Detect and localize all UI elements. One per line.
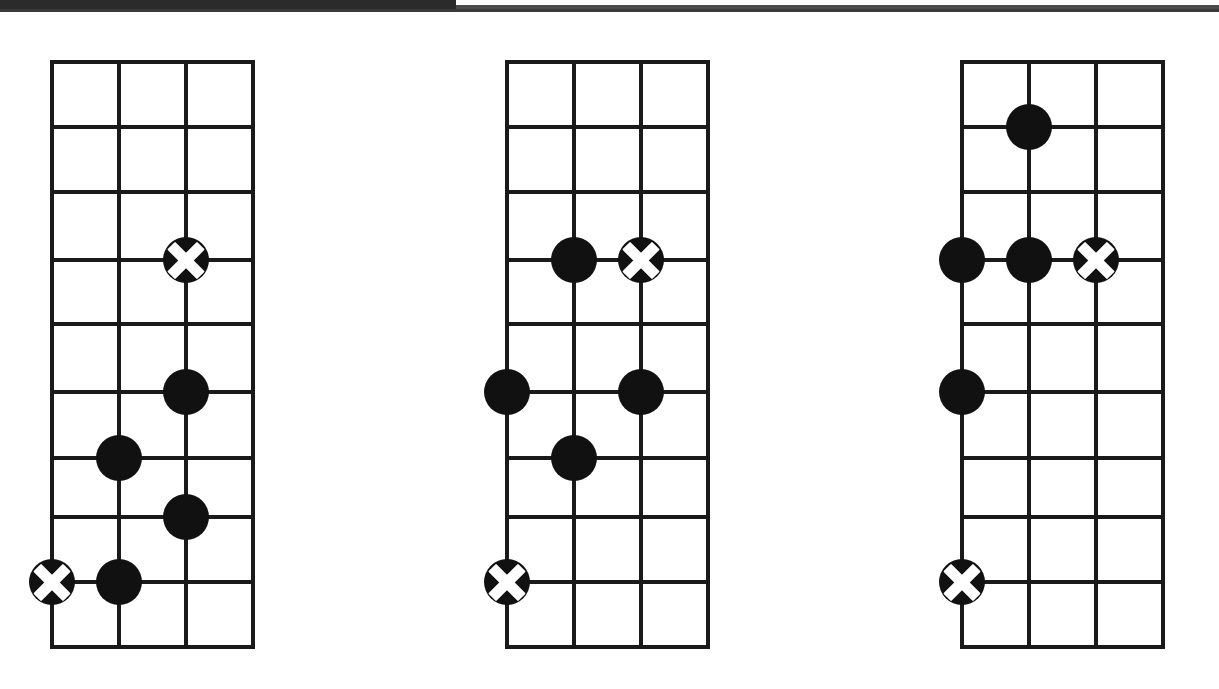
note-marker (163, 494, 209, 540)
fret-line-8 (505, 515, 710, 519)
note-marker (1006, 104, 1052, 150)
fret-line-7 (505, 456, 710, 460)
root-note-marker (163, 237, 209, 283)
fret-line-3 (50, 190, 255, 194)
fret-line-4 (505, 258, 710, 262)
fret-line-8 (50, 515, 255, 519)
fret-line-1 (505, 60, 710, 64)
string-line-2 (572, 60, 576, 649)
fret-line-9 (505, 580, 710, 584)
fret-line-5 (50, 322, 255, 326)
note-marker (1006, 237, 1052, 283)
fret-line-1 (50, 60, 255, 64)
root-note-marker (1073, 237, 1119, 283)
note-marker (484, 369, 530, 415)
chord-diagram-collection (0, 0, 1219, 689)
diagram-3 (960, 60, 1165, 649)
fret-line-9 (50, 580, 255, 584)
string-line-4 (1161, 60, 1165, 649)
note-marker (96, 559, 142, 605)
fret-line-10 (960, 645, 1165, 649)
fret-line-4 (960, 258, 1165, 262)
fret-line-9 (960, 580, 1165, 584)
root-note-marker (29, 559, 75, 605)
fret-line-8 (960, 515, 1165, 519)
fret-line-1 (960, 60, 1165, 64)
fret-line-3 (505, 190, 710, 194)
string-line-4 (706, 60, 710, 649)
fret-line-10 (505, 645, 710, 649)
fret-line-7 (50, 456, 255, 460)
fret-line-6 (50, 390, 255, 394)
string-line-3 (184, 60, 188, 649)
string-line-3 (639, 60, 643, 649)
root-note-marker (939, 559, 985, 605)
diagram-1 (50, 60, 255, 649)
diagram-2 (505, 60, 710, 649)
fret-line-5 (960, 322, 1165, 326)
root-note-marker (484, 559, 530, 605)
note-marker (163, 369, 209, 415)
fret-line-3 (960, 190, 1165, 194)
string-line-4 (251, 60, 255, 649)
note-marker (551, 435, 597, 481)
note-marker (939, 369, 985, 415)
fret-line-6 (505, 390, 710, 394)
note-marker (96, 435, 142, 481)
note-marker (551, 237, 597, 283)
fret-line-7 (960, 456, 1165, 460)
fret-line-5 (505, 322, 710, 326)
fret-line-10 (50, 645, 255, 649)
note-marker (939, 237, 985, 283)
string-line-3 (1094, 60, 1098, 649)
fret-line-2 (505, 125, 710, 129)
fret-line-2 (960, 125, 1165, 129)
root-note-marker (618, 237, 664, 283)
fret-line-6 (960, 390, 1165, 394)
fret-line-2 (50, 125, 255, 129)
fret-line-4 (50, 258, 255, 262)
note-marker (618, 369, 664, 415)
